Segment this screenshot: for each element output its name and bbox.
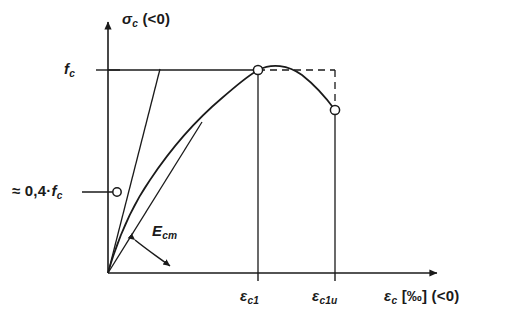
y-axis-label-suffix: (<0) [138, 10, 170, 27]
x-axis-label-suffix: [‰] (<0) [397, 287, 459, 304]
ecm-angle-arrow [135, 240, 170, 266]
y-tick-label-fc04-symbol: f [51, 182, 56, 199]
x-axis-label: εc [‰] (<0) [384, 287, 459, 304]
stress-strain-curve [108, 66, 335, 273]
y-tick-label-fc: fc [64, 60, 75, 77]
tangent-modulus-line [108, 69, 160, 273]
y-tick-label-fc04: ≈ 0,4·fc [12, 182, 63, 199]
y-axis-label-subscript: c [132, 18, 138, 29]
marker-point-fc-peak [253, 65, 262, 74]
annotation-label-ecm-subscript: cm [162, 230, 177, 241]
y-tick-label-fc04-subscript: c [57, 190, 63, 201]
secant-modulus-line [108, 122, 202, 273]
x-tick-label-ec1u: εc1u [312, 287, 338, 304]
x-tick-label-ec1: εc1 [240, 287, 259, 304]
y-tick-label-fc-subscript: c [69, 68, 75, 79]
y-axis-label: σc (<0) [122, 10, 170, 27]
marker-point-ec1u [330, 105, 339, 114]
annotation-label-ecm: Ecm [152, 222, 177, 239]
chart-canvas [0, 0, 513, 327]
marker-point-04fc [113, 188, 121, 196]
y-axis-label-symbol: σ [122, 10, 132, 27]
x-tick-label-ec1u-subscript: c1u [319, 295, 337, 306]
y-tick-label-fc04-prefix: ≈ 0,4· [12, 182, 51, 199]
x-tick-label-ec1-subscript: c1 [247, 295, 259, 306]
stress-strain-diagram: σc (<0) εc [‰] (<0) fc ≈ 0,4·fc Ecm εc1 … [0, 0, 513, 327]
annotation-label-ecm-symbol: E [152, 222, 162, 239]
x-axis-label-subscript: c [391, 295, 397, 306]
